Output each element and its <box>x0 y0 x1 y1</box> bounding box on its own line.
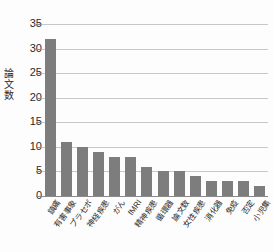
bar <box>93 152 104 196</box>
bar <box>61 142 72 196</box>
bar <box>174 171 185 196</box>
bar <box>141 167 152 196</box>
y-tick-mark-5 <box>36 171 41 172</box>
gridline-20 <box>42 98 268 99</box>
gridline-35 <box>42 24 268 25</box>
y-tick-mark-0 <box>36 196 41 197</box>
x-axis-labels: 鎮痛有害事象プラセボ神経疾患がんfMRI精神疾患循環器論文数女性疾患消化器免疫否… <box>42 198 274 252</box>
bar <box>125 157 136 196</box>
gridline-15 <box>42 122 268 123</box>
gridline-0 <box>42 196 268 197</box>
bar <box>222 181 233 196</box>
y-axis-ticks: 05101520253035 <box>0 0 42 252</box>
bar <box>158 171 169 196</box>
y-tick-label-15: 15 <box>20 115 42 127</box>
bar <box>254 186 265 196</box>
gridline-25 <box>42 73 268 74</box>
bar <box>109 157 120 196</box>
y-tick-mark-35 <box>36 24 41 25</box>
plot-area <box>42 24 268 196</box>
y-tick-mark-20 <box>36 98 41 99</box>
x-tick-label: 免疫 <box>223 198 240 216</box>
y-tick-label-0: 0 <box>20 189 42 201</box>
bar <box>206 181 217 196</box>
y-tick-mark-15 <box>36 122 41 123</box>
bar <box>77 147 88 196</box>
y-tick-label-20: 20 <box>20 91 42 103</box>
bar <box>238 181 249 196</box>
y-tick-label-30: 30 <box>20 42 42 54</box>
y-tick-mark-30 <box>36 49 41 50</box>
x-tick-label: がん <box>110 198 127 216</box>
bar-chart: 論文数 05101520253035 鎮痛有害事象プラセボ神経疾患がんfMRI精… <box>0 0 274 252</box>
y-tick-mark-10 <box>36 147 41 148</box>
y-tick-label-25: 25 <box>20 66 42 78</box>
y-tick-label-35: 35 <box>20 17 42 29</box>
y-tick-mark-25 <box>36 73 41 74</box>
bar <box>45 39 56 196</box>
bar <box>190 176 201 196</box>
gridline-30 <box>42 49 268 50</box>
y-tick-label-5: 5 <box>20 164 42 176</box>
y-tick-label-10: 10 <box>20 140 42 152</box>
